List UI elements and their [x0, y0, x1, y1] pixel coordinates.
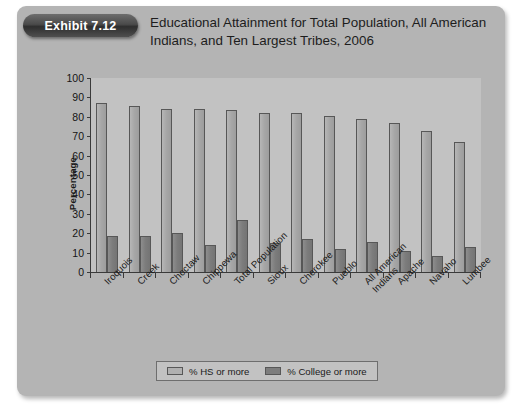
bar-group: [91, 78, 124, 272]
y-axis-tick-label: 50: [57, 169, 84, 181]
y-axis-tick-mark: [87, 253, 91, 254]
y-axis-tick-label: 80: [57, 111, 84, 123]
bar-hs-or-more: [226, 110, 237, 272]
chart-legend: % HS or more% College or more: [156, 361, 378, 381]
y-axis-tick-mark: [87, 117, 91, 118]
legend-label: % HS or more: [189, 366, 249, 377]
bar-hs-or-more: [194, 109, 205, 272]
bar-group: [189, 78, 222, 272]
bar-group: [156, 78, 189, 272]
bar-group: [449, 78, 482, 272]
y-axis-tick-label: 70: [57, 130, 84, 142]
legend-label: % College or more: [287, 366, 366, 377]
x-axis-tick-mark: [90, 273, 91, 278]
y-axis-tick-label: 60: [57, 150, 84, 162]
y-axis-tick-label: 30: [57, 208, 84, 220]
y-axis-tick-mark: [87, 97, 91, 98]
y-axis-tick-mark: [87, 175, 91, 176]
bar-hs-or-more: [421, 131, 432, 272]
bar-group: [221, 78, 254, 272]
bar-group: [124, 78, 157, 272]
y-axis-tick-labels: 0102030405060708090100: [57, 78, 84, 272]
exhibit-card: Exhibit 7.12 Educational Attainment for …: [17, 6, 505, 396]
y-axis-tick-label: 40: [57, 188, 84, 200]
bar-hs-or-more: [454, 142, 465, 272]
exhibit-badge-label: Exhibit 7.12: [45, 19, 117, 33]
legend-item: % HS or more: [167, 366, 249, 377]
bar-hs-or-more: [96, 103, 107, 272]
legend-swatch: [167, 367, 183, 375]
bar-hs-or-more: [291, 113, 302, 272]
y-axis-tick-mark: [87, 78, 91, 79]
bar-hs-or-more: [129, 106, 140, 272]
y-axis-tick-label: 10: [57, 247, 84, 259]
y-axis-tick-label: 100: [57, 72, 84, 84]
exhibit-badge: Exhibit 7.12: [23, 14, 138, 37]
bar-hs-or-more: [356, 119, 367, 272]
y-axis-tick-mark: [87, 136, 91, 137]
bar-group: [286, 78, 319, 272]
y-axis-tick-mark: [87, 214, 91, 215]
x-axis-tick-labels: IroquoisCreekChoctawChippewaTotal Popula…: [90, 279, 480, 353]
y-axis-tick-label: 20: [57, 227, 84, 239]
exhibit-title: Educational Attainment for Total Populat…: [150, 14, 490, 50]
y-axis-tick-mark: [87, 156, 91, 157]
bar-group: [351, 78, 384, 272]
y-axis-tick-label: 90: [57, 91, 84, 103]
chart-plot-frame: Percentage 0102030405060708090100 Iroquo…: [35, 58, 487, 356]
y-axis-tick-label: 0: [57, 266, 84, 278]
legend-swatch: [265, 367, 281, 375]
bar-hs-or-more: [161, 109, 172, 272]
legend-item: % College or more: [265, 366, 366, 377]
y-axis-tick-mark: [87, 233, 91, 234]
bar-group: [319, 78, 352, 272]
y-axis-tick-mark: [87, 194, 91, 195]
bar-hs-or-more: [324, 116, 335, 272]
